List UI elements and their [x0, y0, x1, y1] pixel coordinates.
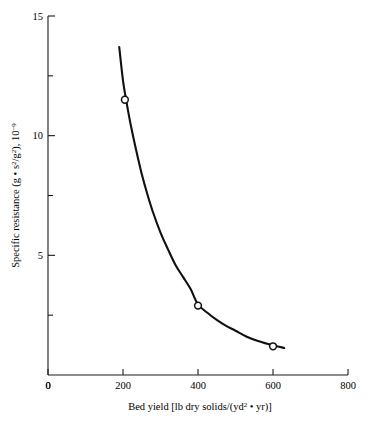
- y-title-part-0: Specific resistance (g • s: [10, 165, 22, 268]
- data-point-marker: [195, 302, 202, 309]
- chart-figure: 02004006008000 51015 Bed yield [lb dry s…: [0, 0, 371, 432]
- x-axis-tick-labels: 02004006008000: [45, 380, 356, 391]
- x-tick-label: 200: [115, 380, 131, 391]
- chart-svg: 02004006008000 51015 Bed yield [lb dry s…: [0, 0, 371, 432]
- data-point-marker: [121, 96, 128, 103]
- x-axis-title: Bed yield [lb dry solids/(yd2 • yr)]: [128, 401, 272, 414]
- y-axis-tick-labels: 51015: [33, 11, 44, 261]
- data-curve: [119, 47, 284, 348]
- x-tick-label: 600: [265, 380, 281, 391]
- y-tick-label: 15: [33, 11, 44, 22]
- y-title-part-5: −9: [10, 123, 18, 131]
- x-title-tail: • yr)]: [247, 401, 272, 413]
- x-axis-ticks: [48, 369, 348, 375]
- y-tick-label: 10: [33, 130, 44, 141]
- y-title-part-4: ), 10: [10, 131, 22, 150]
- data-point-marker: [270, 343, 277, 350]
- x-title-lead: Bed yield [lb dry solids/(yd: [128, 401, 244, 413]
- y-axis-ticks: [48, 16, 55, 315]
- x-tick-label: 800: [340, 380, 356, 391]
- origin-label: 0: [45, 380, 50, 391]
- axes-group: [48, 16, 348, 375]
- y-tick-label: 5: [38, 250, 43, 261]
- x-tick-label: 400: [190, 380, 206, 391]
- data-point-markers: [121, 96, 276, 349]
- y-axis-title: Specific resistance (g • s2/g2), 10−9: [10, 123, 23, 268]
